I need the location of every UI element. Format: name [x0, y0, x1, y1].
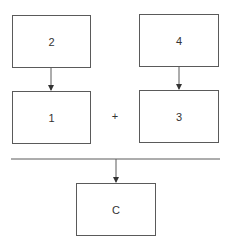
box-3: 3: [139, 90, 219, 143]
box-2: 2: [12, 15, 91, 68]
box-1: 1: [12, 91, 91, 144]
box-4-label: 4: [176, 35, 182, 47]
box-1-label: 1: [48, 112, 54, 124]
box-2-label: 2: [48, 36, 54, 48]
box-c: C: [76, 183, 156, 236]
box-c-label: C: [112, 204, 120, 216]
plus-operator: +: [109, 110, 121, 122]
box-3-label: 3: [176, 111, 182, 123]
box-4: 4: [139, 14, 219, 67]
